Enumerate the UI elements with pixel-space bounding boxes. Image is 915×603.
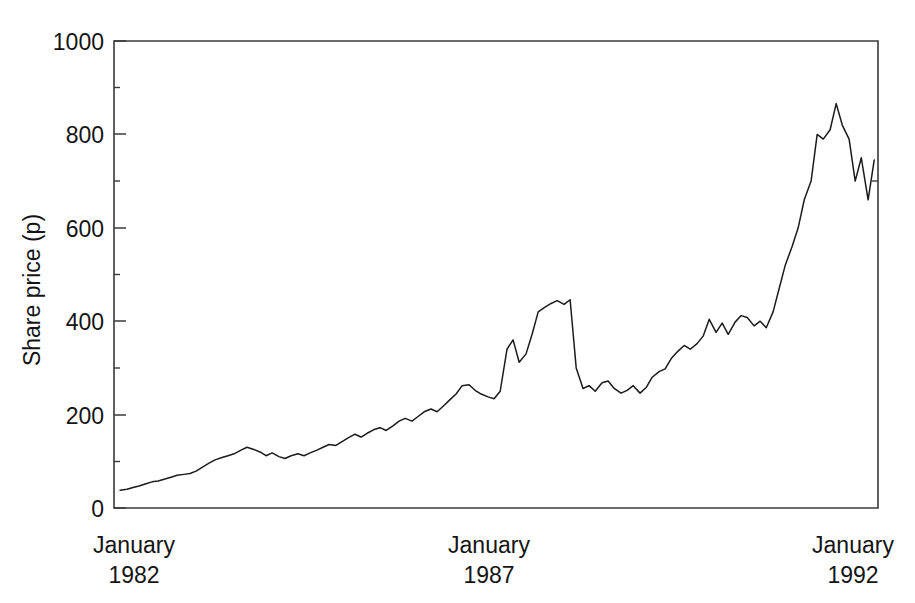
y-tick-label-800: 800: [66, 122, 104, 148]
y-tick-label-200: 200: [66, 403, 104, 429]
plot-frame: [114, 41, 878, 508]
y-axis-minor-ticks: [114, 88, 120, 462]
share-price-series-line: [120, 104, 874, 491]
y-tick-label-400: 400: [66, 309, 104, 335]
x-tick-label-1987-year: 1987: [463, 562, 514, 588]
y-axis-title: Share price (p): [19, 214, 45, 366]
y-tick-label-0: 0: [91, 496, 104, 522]
x-tick-label-1992-year: 1992: [827, 562, 878, 588]
y-tick-label-1000: 1000: [53, 29, 104, 55]
x-tick-label-1982-year: 1982: [108, 562, 159, 588]
chart-figure: 1000 800 600 400 200 0 Share price (p) J…: [0, 0, 915, 603]
x-tick-label-1987-month: January: [448, 532, 530, 558]
x-tick-label-1992-month: January: [812, 532, 894, 558]
x-tick-label-1982-month: January: [93, 532, 175, 558]
share-price-line-chart: 1000 800 600 400 200 0 Share price (p) J…: [0, 0, 915, 603]
y-tick-label-600: 600: [66, 216, 104, 242]
